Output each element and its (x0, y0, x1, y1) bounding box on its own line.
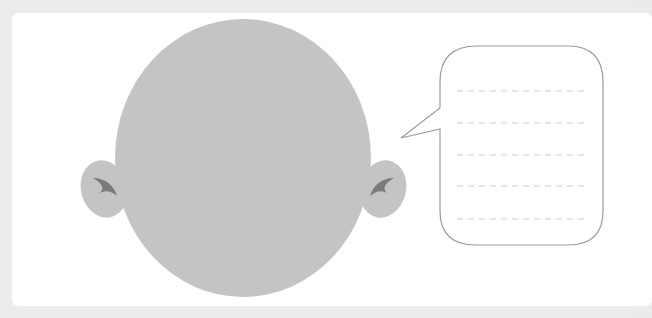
head-circle (115, 19, 371, 297)
speech-bubble (401, 46, 603, 245)
